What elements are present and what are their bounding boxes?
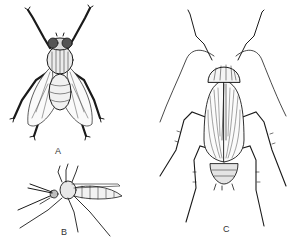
panel-label-c: C [223, 225, 230, 234]
fly-illustration [10, 5, 104, 140]
panel-label-a: A [55, 147, 61, 156]
mosquito-illustration [18, 164, 122, 236]
insect-illustration-figure: A B C [0, 0, 303, 244]
illustration-svg [0, 0, 303, 244]
panel-label-b: B [61, 228, 67, 237]
cockroach-illustration [160, 10, 286, 226]
